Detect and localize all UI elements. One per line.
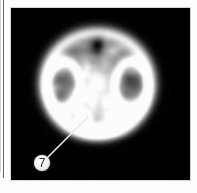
page-edge-shadow	[0, 0, 1, 172]
figure-root: 7	[0, 0, 197, 193]
scan-panel: 7	[11, 8, 190, 180]
callout-marker-label: 7	[39, 157, 46, 169]
callout-marker-7[interactable]: 7	[34, 155, 50, 171]
page-vertical-rule	[3, 0, 4, 178]
callout-leader-line	[11, 8, 190, 180]
